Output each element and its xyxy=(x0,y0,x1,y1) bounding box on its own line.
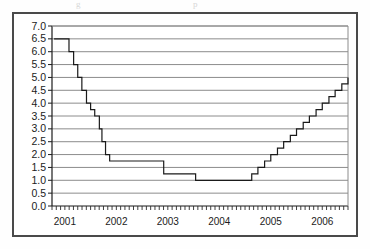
plot-frame: 0.00.51.01.52.02.53.03.54.04.55.05.56.06… xyxy=(12,12,358,237)
xtick-label: 2003 xyxy=(157,216,180,227)
xtick-label: 2002 xyxy=(105,216,128,227)
cropped-text-sliver: g p xyxy=(0,0,370,11)
ytick-label: 2.5 xyxy=(31,135,46,147)
xtick-label: 2006 xyxy=(311,216,334,227)
top-fragment-right: p xyxy=(193,0,198,9)
ytick-label: 4.5 xyxy=(31,84,46,96)
ytick-label: 1.0 xyxy=(31,174,46,186)
plot-area: 0.00.51.01.52.02.53.03.54.04.55.05.56.06… xyxy=(14,14,360,239)
ytick-label: 0.5 xyxy=(31,187,46,199)
chart-figure: g p 0.00.51.01.52.02.53.03.54.04.55.05.5… xyxy=(0,0,370,249)
step-line-chart: 0.00.51.01.52.02.53.03.54.04.55.05.56.06… xyxy=(14,14,360,239)
ytick-label: 3.0 xyxy=(31,122,46,134)
ytick-label: 3.5 xyxy=(31,110,46,122)
ytick-label: 2.0 xyxy=(31,148,46,160)
ytick-label: 1.5 xyxy=(31,161,46,173)
top-fragment-left: g xyxy=(76,0,81,9)
xtick-label: 2005 xyxy=(260,216,283,227)
xtick-label: 2004 xyxy=(208,216,231,227)
ytick-label: 0.0 xyxy=(31,200,46,212)
ytick-label: 5.5 xyxy=(31,58,46,70)
ytick-label: 7.0 xyxy=(31,20,46,32)
ytick-label: 4.0 xyxy=(31,97,46,109)
rate-step-line xyxy=(54,39,348,180)
ytick-label: 6.5 xyxy=(31,32,46,44)
xtick-label: 2001 xyxy=(54,216,77,227)
ytick-label: 5.0 xyxy=(31,71,46,83)
ytick-label: 6.0 xyxy=(31,45,46,57)
